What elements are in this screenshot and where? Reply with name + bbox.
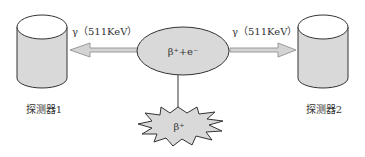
detector-2-cylinder bbox=[298, 15, 348, 88]
detector-1-top bbox=[17, 15, 67, 39]
right-photon-label: γ（511KeV） bbox=[232, 26, 297, 37]
diagram-canvas: γ（511KeV） γ（511KeV） β⁺+e⁻ β⁺ 探测器1 探测器2 bbox=[0, 0, 365, 157]
left-photon-arrow bbox=[70, 43, 138, 57]
detector-1-cylinder bbox=[17, 15, 67, 88]
detector-2-label: 探测器2 bbox=[306, 103, 342, 115]
beta-source-label: β⁺ bbox=[173, 121, 184, 132]
left-photon-label: γ（511KeV） bbox=[72, 26, 137, 37]
annihilation-label: β⁺+e⁻ bbox=[168, 46, 199, 57]
detector-1-label: 探测器1 bbox=[26, 103, 62, 115]
right-photon-arrow bbox=[230, 43, 296, 57]
detector-2-top bbox=[298, 15, 348, 39]
